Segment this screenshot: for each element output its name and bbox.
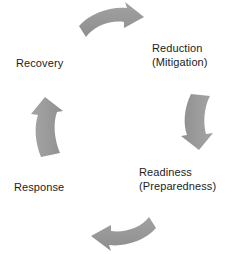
stage-label-recovery: Recovery: [16, 57, 63, 71]
arrow-readiness-to-response: [91, 217, 156, 251]
stage-label-readiness: Readiness (Preparedness): [139, 166, 216, 193]
cycle-arrows-graphic: [0, 0, 234, 254]
arrow-reduction-to-readiness: [181, 94, 213, 150]
arrow-response-to-recovery: [31, 97, 63, 157]
emergency-management-cycle-diagram: Reduction (Mitigation) Readiness (Prepar…: [0, 0, 234, 254]
arrow-recovery-to-reduction: [79, 2, 144, 37]
stage-label-reduction: Reduction (Mitigation): [152, 42, 208, 69]
stage-label-response: Response: [14, 181, 64, 195]
